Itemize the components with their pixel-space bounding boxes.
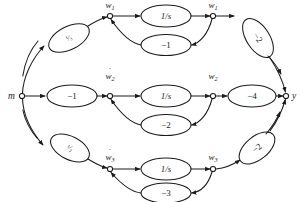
edge-m-to-top-gain-in	[23, 46, 45, 94]
edge-top-feedback-to-wdot1	[111, 20, 141, 46]
node-dot-wdot1: ˙	[109, 0, 112, 5]
node-wdot2[interactable]	[107, 93, 112, 98]
edge-top-output-gain-to-y	[270, 58, 285, 92]
node-input-m[interactable]	[19, 93, 24, 98]
node-w3[interactable]	[210, 166, 215, 171]
edge-w1-to-top-feedback	[192, 19, 213, 45]
integrator-label-top: 1/s	[161, 11, 172, 21]
gain-label-mid-feedback: −2	[161, 120, 171, 130]
gain-label-mid-output: −4	[247, 91, 257, 101]
gain-label-bot-feedback: −3	[161, 188, 171, 198]
edge-mid-feedback-to-wdot2	[111, 100, 141, 126]
edge-w3-to-bot-output-gain	[216, 160, 240, 169]
diagram-canvas: m y ¹⁄₃ w1 ˙ 1/s w1 −2	[0, 0, 308, 202]
signal-flow-graph: m y ¹⁄₃ w1 ˙ 1/s w1 −2	[0, 0, 308, 202]
node-wdot1[interactable]	[107, 13, 112, 18]
integrator-label-mid: 1/s	[161, 91, 172, 101]
gain-label-mid-input: −1	[67, 91, 77, 101]
terminal-label-input: m	[8, 91, 15, 101]
edge-bot-output-arrow-stub	[266, 112, 280, 134]
edge-w3-to-bot-feedback	[192, 172, 213, 193]
edge-m-to-bot-gain	[23, 99, 44, 146]
terminal-label-output: y	[291, 91, 297, 101]
node-output-y[interactable]	[283, 93, 288, 98]
node-label-w1: w1	[208, 0, 217, 11]
node-dot-wdot2: ˙	[109, 66, 112, 76]
edge-bot-feedback-to-wdot3	[111, 173, 141, 194]
node-label-w3: w3	[208, 152, 217, 163]
edge-m-to-top-gain-stub	[23, 41, 38, 76]
node-dot-wdot3: ˙	[109, 147, 112, 157]
edge-top-gain-to-wdot1	[88, 17, 107, 26]
node-wdot3[interactable]	[107, 166, 112, 171]
node-w1[interactable]	[210, 13, 215, 18]
gain-label-top-feedback: −1	[161, 40, 171, 50]
edge-bot-gain-to-wdot3	[88, 159, 107, 168]
edge-w2-to-mid-feedback	[192, 99, 213, 125]
integrator-label-bot: 1/s	[161, 164, 172, 174]
node-w2[interactable]	[210, 93, 215, 98]
node-label-w2: w2	[208, 71, 217, 82]
